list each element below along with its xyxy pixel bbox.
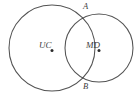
geometry-figure: UC MD A B — [0, 0, 139, 99]
left-center-label: UC — [39, 41, 52, 50]
intersection-label-b: B — [83, 82, 88, 91]
figure-canvas — [0, 0, 139, 99]
intersection-label-a: A — [83, 2, 88, 11]
right-center-label: MD — [86, 41, 100, 50]
